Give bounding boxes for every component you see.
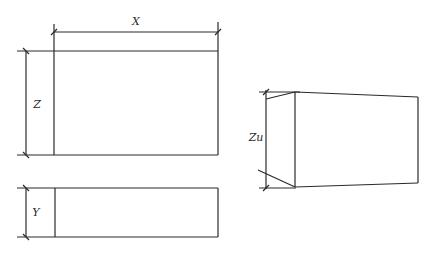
top-view: Y	[17, 185, 218, 240]
perspective-view: Zu	[248, 89, 418, 191]
zu-label: Zu	[248, 131, 264, 144]
dimension-diagram: X Z Y Zu	[0, 0, 431, 253]
x-label: X	[131, 15, 141, 28]
y-label: Y	[32, 206, 41, 219]
z-label: Z	[32, 98, 41, 111]
persp-top-edge	[295, 92, 418, 97]
persp-diagonal-top	[266, 92, 295, 99]
front-view: X Z	[17, 15, 221, 158]
persp-bottom-edge	[295, 183, 418, 187]
persp-diagonal-bottom	[258, 170, 295, 187]
